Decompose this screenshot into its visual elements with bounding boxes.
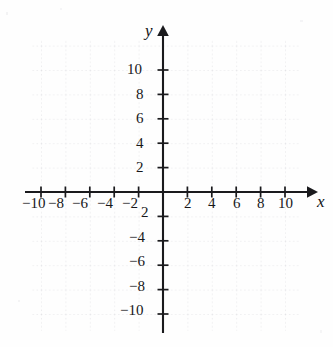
x-tick-label: 2	[184, 196, 192, 211]
y-tick-label: 2	[136, 160, 144, 175]
y-tick-label: −6	[129, 254, 145, 269]
y-tick-label: −10	[120, 303, 143, 318]
x-tick-label: 10	[278, 196, 293, 211]
y-tick-label: −8	[129, 279, 145, 294]
y-tick-label: 4	[136, 136, 144, 151]
x-tick-label: −10	[22, 196, 45, 211]
x-tick-label: 6	[233, 196, 241, 211]
x-axis-label: x	[317, 193, 325, 210]
x-tick-label: −8	[48, 196, 64, 211]
x-tick-label: −4	[97, 196, 113, 211]
x-tick-label: 8	[257, 196, 265, 211]
y-tick-label: 8	[136, 87, 144, 102]
grid-area	[31, 39, 300, 331]
coordinate-plane-figure: y x −10 −8 −6 −4 −2 2 4 6 8 10 10 8 6 4 …	[0, 0, 333, 347]
y-tick-label: 6	[136, 111, 144, 126]
y-tick-label: 10	[127, 62, 142, 77]
x-tick-label: −2	[122, 196, 138, 211]
y-tick-label: −4	[129, 230, 145, 245]
x-tick-label: −6	[72, 196, 88, 211]
y-axis-arrowhead-icon	[157, 25, 169, 36]
y-tick-label: 2	[141, 205, 149, 220]
x-tick-label: 4	[208, 196, 216, 211]
coordinate-plane-svg	[0, 0, 333, 347]
y-axis-label: y	[145, 22, 153, 39]
